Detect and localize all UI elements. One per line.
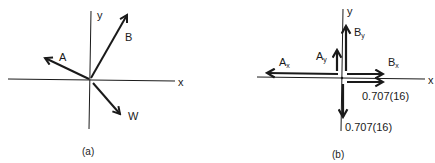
component-ay-label: Ay (316, 50, 327, 64)
vector-b-label: B (125, 31, 132, 43)
component-bx-label: Bx (388, 56, 399, 69)
vector-w-arrow (93, 83, 120, 114)
caption-b: (b) (332, 149, 344, 160)
component-ax-label: Ax (279, 56, 290, 69)
y-axis-a (89, 11, 91, 129)
vector-b-arrow (91, 15, 127, 78)
panel-b: y x Ax Ay By Bx 0.707(16) 0.707(16) (b) (257, 5, 434, 160)
vector-a-arrow (45, 58, 89, 79)
component-ax-arrow (267, 73, 338, 74)
origin-point-b (341, 77, 343, 79)
axis-y-label-b: y (347, 5, 353, 17)
component-wx-label: 0.707(16) (362, 90, 409, 102)
axis-x-label-b: x (428, 74, 434, 86)
panel-a: y x A B W (a) (8, 9, 184, 157)
vector-a-label: A (59, 51, 67, 63)
component-by-label: By (354, 26, 365, 40)
axis-x-label-a: x (178, 76, 184, 88)
vector-diagram: y x A B W (a) y x Ax Ay By Bx 0.707(16) … (0, 0, 435, 163)
x-axis-a (8, 79, 175, 81)
vector-w-label: W (128, 110, 139, 122)
axis-y-label-a: y (97, 9, 103, 21)
caption-a: (a) (82, 146, 94, 157)
component-wy-label: 0.707(16) (345, 121, 392, 133)
